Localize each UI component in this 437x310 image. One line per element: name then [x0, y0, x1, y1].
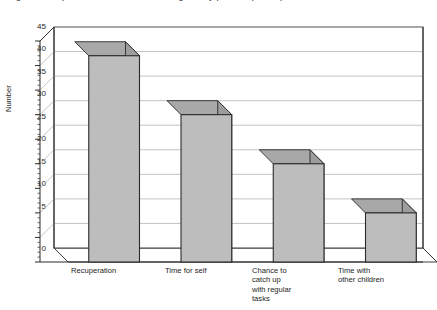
x-tick-label-recuperation: Recuperation	[71, 266, 151, 275]
x-tick-label-chance-to-catch-up: Chance to catch up with regular tasks	[252, 266, 322, 304]
x-tick-label-time-for-self: Time for self	[165, 266, 245, 275]
x-axis-labels: Recuperation Time for self Chance to cat…	[0, 0, 437, 310]
x-tick-label-time-with-other-children: Time with other children	[338, 266, 418, 285]
figure-container: Figure 3 Respite care: the main reasons …	[0, 0, 437, 310]
